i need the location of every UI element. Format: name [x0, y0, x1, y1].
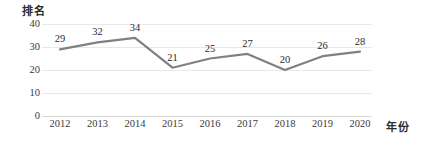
- data-label-2018: 20: [280, 55, 291, 66]
- y-tick-label-10: 10: [14, 88, 40, 99]
- x-tick-label-2019: 2019: [312, 119, 333, 130]
- y-tick-label-30: 30: [14, 42, 40, 53]
- data-label-2012: 29: [55, 34, 66, 45]
- data-label-2019: 26: [317, 41, 328, 52]
- y-tick-label-40: 40: [14, 19, 40, 30]
- data-label-2015: 21: [167, 52, 178, 63]
- x-tick-label-2014: 2014: [125, 119, 146, 130]
- line-chart: 排名 年份 403020100 293234212527202628 20122…: [0, 0, 428, 144]
- data-label-2020: 28: [355, 36, 366, 47]
- x-axis-tick-labels: 201220132014201520162017201820192020: [42, 119, 372, 135]
- x-tick-label-2015: 2015: [162, 119, 183, 130]
- gridline-0: [42, 116, 372, 117]
- x-tick-label-2013: 2013: [87, 119, 108, 130]
- data-label-2013: 32: [92, 27, 103, 38]
- x-tick-label-2020: 2020: [350, 119, 371, 130]
- y-tick-label-0: 0: [14, 111, 40, 122]
- y-tick-label-20: 20: [14, 65, 40, 76]
- x-tick-label-2016: 2016: [200, 119, 221, 130]
- x-tick-label-2018: 2018: [275, 119, 296, 130]
- data-label-2014: 34: [130, 22, 141, 33]
- x-tick-label-2017: 2017: [237, 119, 258, 130]
- x-tick-label-2012: 2012: [50, 119, 71, 130]
- data-label-2017: 27: [242, 38, 253, 49]
- data-label-2016: 25: [205, 43, 216, 54]
- x-axis-title: 年份: [386, 118, 409, 134]
- data-point-labels: 293234212527202628: [42, 24, 372, 116]
- y-axis-tick-labels: 403020100: [14, 0, 40, 144]
